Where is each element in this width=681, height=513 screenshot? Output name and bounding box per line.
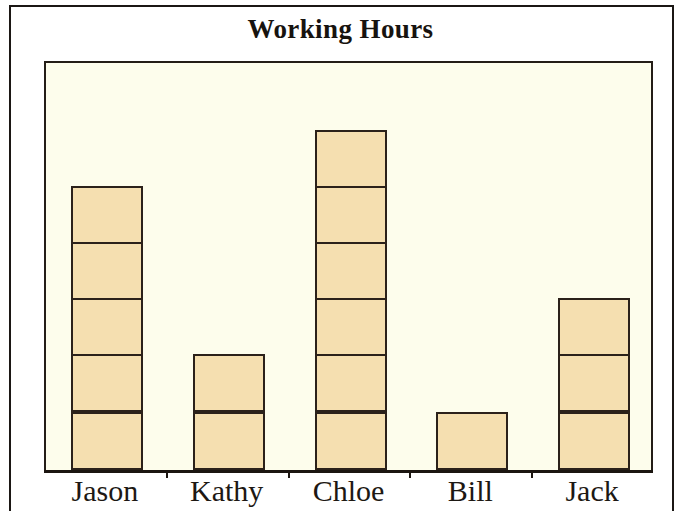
x-label-bill: Bill [409, 474, 531, 508]
plot-area [44, 61, 653, 472]
x-label-kathy: Kathy [166, 474, 288, 508]
bar-jason [71, 180, 143, 470]
bar-segment [558, 298, 630, 356]
bar-segment [71, 186, 143, 244]
x-axis-tick [288, 470, 290, 478]
bar-segment [315, 242, 387, 300]
x-axis-tick [409, 470, 411, 478]
bar-bill [436, 412, 508, 470]
bar-segment [71, 412, 143, 470]
x-label-jack: Jack [531, 474, 653, 508]
bar-chloe [315, 122, 387, 470]
plot-inner-surface [46, 63, 651, 470]
chart-title: Working Hours [0, 14, 681, 45]
bar-segment [71, 354, 143, 412]
bar-segment [315, 130, 387, 188]
x-axis-tick [531, 470, 533, 478]
bar-segment [315, 298, 387, 356]
bar-segment [558, 354, 630, 412]
bar-segment [193, 354, 265, 412]
x-label-jason: Jason [44, 474, 166, 508]
x-label-chloe: Chloe [288, 474, 410, 508]
bar-segment [193, 412, 265, 470]
bar-segment [558, 412, 630, 470]
x-axis-labels: JasonKathyChloeBillJack [44, 474, 653, 513]
bar-segment [315, 186, 387, 244]
bar-segment [315, 412, 387, 470]
bar-kathy [193, 354, 265, 470]
bar-segment [71, 298, 143, 356]
bar-segment [315, 354, 387, 412]
bar-segment [436, 412, 508, 470]
x-axis-tick [166, 470, 168, 478]
bar-segment [71, 242, 143, 300]
chart-figure: Working Hours JasonKathyChloeBillJack [0, 0, 681, 513]
x-axis-line [44, 470, 653, 473]
bar-jack [558, 296, 630, 470]
